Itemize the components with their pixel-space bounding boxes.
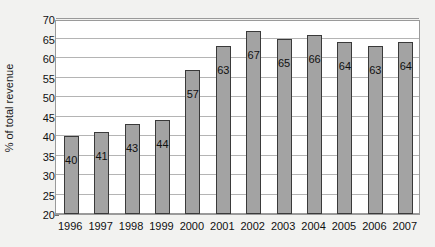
bar: 40 — [64, 136, 79, 214]
y-axis-title-text: % of total revenue — [3, 63, 15, 152]
gridline — [56, 96, 419, 97]
bar-value-label: 63 — [369, 65, 381, 76]
bar: 57 — [185, 70, 200, 214]
x-tick-label: 2007 — [393, 219, 417, 233]
bar-value-label: 63 — [217, 65, 229, 76]
y-tick-label: 35 — [33, 151, 55, 162]
bar: 43 — [125, 124, 140, 214]
bar: 65 — [277, 39, 292, 215]
y-tick-label: 20 — [33, 210, 55, 221]
gridline — [56, 135, 419, 136]
x-tick-label: 2002 — [240, 219, 264, 233]
bar-chart: % of total revenue 202530354045505560657… — [0, 0, 435, 247]
bar: 63 — [368, 46, 383, 214]
x-tick-label: 1999 — [149, 219, 173, 233]
y-tick-label: 40 — [33, 132, 55, 143]
bar-value-label: 43 — [126, 143, 138, 154]
y-tick-label: 65 — [33, 34, 55, 45]
bar-value-label: 65 — [278, 58, 290, 69]
gridline — [56, 57, 419, 58]
bar-value-label: 40 — [65, 155, 77, 166]
x-tick-label: 2003 — [271, 219, 295, 233]
bar-value-label: 57 — [187, 89, 199, 100]
x-axis-ticks: 1996199719981999200020012002200320042005… — [55, 219, 420, 241]
bar-value-label: 64 — [400, 61, 412, 72]
bar: 64 — [337, 42, 352, 214]
x-tick-label: 2001 — [210, 219, 234, 233]
gridline — [56, 155, 419, 156]
x-tick-label: 2006 — [362, 219, 386, 233]
y-tick-label: 30 — [33, 171, 55, 182]
bar-value-label: 41 — [96, 151, 108, 162]
gridline — [56, 77, 419, 78]
gridline — [56, 18, 419, 19]
y-tick-label: 50 — [33, 93, 55, 104]
bar-value-label: 67 — [248, 50, 260, 61]
bar-value-label: 66 — [308, 54, 320, 65]
x-tick-label: 1996 — [58, 219, 82, 233]
y-tick-mark — [55, 215, 59, 216]
x-tick-label: 2004 — [301, 219, 325, 233]
y-axis-title: % of total revenue — [0, 0, 18, 215]
x-tick-label: 2000 — [180, 219, 204, 233]
y-tick-label: 55 — [33, 73, 55, 84]
bar: 41 — [94, 132, 109, 214]
gridline — [56, 174, 419, 175]
x-tick-label: 2005 — [332, 219, 356, 233]
gridline — [56, 116, 419, 117]
x-tick-label: 1998 — [119, 219, 143, 233]
bar: 44 — [155, 120, 170, 214]
y-tick-label: 25 — [33, 190, 55, 201]
bar: 64 — [398, 42, 413, 214]
y-axis-ticks: 2025303540455055606570 — [18, 20, 55, 215]
gridline — [56, 38, 419, 39]
gridline — [56, 194, 419, 195]
plot-area: 404143445763676566646364 — [55, 20, 420, 215]
bar: 67 — [246, 31, 261, 214]
bar-value-label: 64 — [339, 61, 351, 72]
y-tick-label: 60 — [33, 54, 55, 65]
x-tick-label: 1997 — [88, 219, 112, 233]
gridline — [56, 213, 419, 214]
bar: 63 — [216, 46, 231, 214]
y-tick-label: 45 — [33, 112, 55, 123]
bar-value-label: 44 — [156, 139, 168, 150]
y-tick-label: 70 — [33, 15, 55, 26]
bar: 66 — [307, 35, 322, 214]
